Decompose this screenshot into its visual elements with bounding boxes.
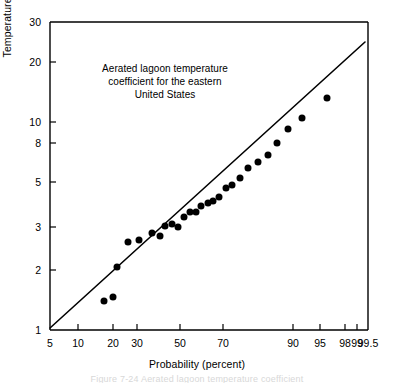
y-axis-ticks	[50, 62, 56, 270]
data-point	[187, 209, 194, 216]
y-tick-label: 8	[35, 137, 41, 149]
y-tick-label: 10	[29, 116, 41, 128]
y-tick-label: 20	[29, 56, 41, 68]
data-point	[149, 230, 156, 237]
y-tick-label: 1	[35, 324, 41, 336]
data-point-series	[101, 95, 331, 305]
y-tick-label: 3	[35, 221, 41, 233]
y-tick-label: 5	[35, 176, 41, 188]
y-axis-title: Temperature factor "f" x 106	[0, 0, 14, 92]
data-point	[285, 126, 292, 133]
data-point	[216, 194, 223, 201]
annotation-line-3: United States	[70, 88, 260, 101]
plot-annotation: Aerated lagoon temperature coefficient f…	[70, 62, 260, 101]
x-tick-label: 30	[131, 337, 143, 349]
data-point	[136, 237, 143, 244]
data-point	[198, 203, 205, 210]
x-axis-tick-labels: 510203050709095989999.5	[47, 337, 378, 349]
annotation-line-1: Aerated lagoon temperature	[70, 62, 260, 75]
data-point	[255, 159, 262, 166]
data-point	[210, 198, 217, 205]
data-point	[193, 209, 200, 216]
x-tick-label: 70	[217, 337, 229, 349]
x-tick-label: 5	[47, 337, 53, 349]
x-tick-label: 50	[174, 337, 186, 349]
x-tick-label: 10	[72, 337, 84, 349]
data-point	[223, 185, 230, 192]
data-point	[245, 165, 252, 172]
probability-plot: 12358102030 510203050709095989999.5	[0, 0, 394, 383]
data-point	[175, 224, 182, 231]
data-point	[101, 298, 108, 305]
data-point	[274, 140, 281, 147]
data-point	[110, 294, 117, 301]
y-axis-tick-labels: 12358102030	[29, 16, 41, 336]
y-tick-label: 30	[29, 16, 41, 28]
data-point	[324, 95, 331, 102]
x-tick-label: 90	[287, 337, 299, 349]
data-point	[229, 182, 236, 189]
data-point	[169, 221, 176, 228]
data-point	[114, 264, 121, 271]
data-point	[299, 115, 306, 122]
y-axis-title-text: Temperature factor "f" x 10	[0, 0, 12, 57]
x-axis-title: Probability (percent)	[0, 358, 394, 370]
x-tick-label: 95	[314, 337, 326, 349]
figure-caption: Figure 7-24 Aerated lagoon temperature c…	[0, 374, 394, 383]
x-tick-label: 99.5	[358, 337, 379, 349]
x-axis-ticks	[78, 324, 357, 330]
x-tick-label: 20	[107, 337, 119, 349]
annotation-line-2: coefficient for the eastern	[70, 75, 260, 88]
data-point	[265, 152, 272, 159]
data-point	[162, 223, 169, 230]
x-tick-label: 98	[339, 337, 351, 349]
data-point	[237, 175, 244, 182]
figure-container: 12358102030 510203050709095989999.5 Temp…	[0, 0, 394, 383]
y-tick-label: 2	[35, 264, 41, 276]
data-point	[181, 214, 188, 221]
data-point	[125, 239, 132, 246]
data-point	[157, 233, 164, 240]
